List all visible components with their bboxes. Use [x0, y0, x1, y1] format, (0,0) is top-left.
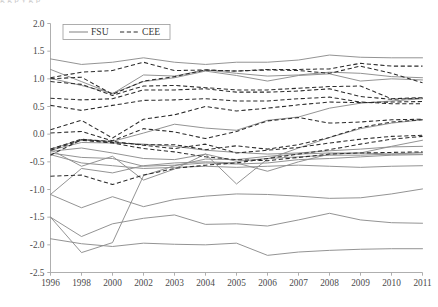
x-tick-label: 2009	[351, 278, 370, 288]
x-tick-label: 2010	[382, 278, 401, 288]
series-line-fsu-13	[51, 140, 423, 252]
x-tick-label: 2011	[413, 278, 432, 288]
x-axis: 1996199820002002200320042005200620072008…	[41, 273, 432, 289]
x-tick-label: 2005	[227, 278, 246, 288]
y-tick-label: -0.5	[30, 157, 45, 167]
x-tick-label: 2002	[134, 278, 153, 288]
series-line-cee-3	[51, 82, 423, 99]
series-line-cee-7	[51, 118, 423, 141]
series-line-fsu-11	[51, 213, 423, 236]
series-line-fsu-1	[51, 55, 423, 64]
x-tick-label: 2004	[196, 278, 215, 288]
series-line-cee-6	[51, 102, 423, 139]
legend-label-cee: CEE	[142, 26, 160, 37]
series-line-fsu-2	[51, 69, 423, 93]
y-tick-label: 0.0	[33, 129, 45, 139]
series-lines	[51, 55, 423, 255]
series-line-cee-8	[51, 120, 423, 150]
x-tick-label: 2007	[289, 278, 308, 288]
y-tick-label: 1.5	[33, 46, 45, 56]
y-tick-label: -1.0	[30, 185, 45, 195]
y-tick-label: -2.5	[30, 268, 45, 278]
y-tick-label: -2.0	[30, 240, 45, 250]
line-chart: 2.01.51.00.50.0-0.5-1.0-1.5-2.0-2.5 1996…	[0, 0, 438, 307]
x-tick-label: 1998	[72, 278, 91, 288]
series-line-cee-11	[51, 136, 423, 184]
x-tick-label: 2008	[320, 278, 339, 288]
y-tick-label: 2.0	[33, 19, 45, 29]
y-tick-label: 1.0	[33, 74, 45, 84]
x-tick-label: 1996	[41, 278, 60, 288]
x-tick-label: 2000	[103, 278, 122, 288]
y-tick-label: -1.5	[30, 212, 45, 222]
figure-container: g g p y g p 2.01.51.00.50.0-0.5-1.0-1.5-…	[0, 0, 438, 307]
y-tick-label: 0.5	[33, 102, 45, 112]
x-tick-label: 2006	[258, 278, 277, 288]
series-line-cee-4	[51, 89, 423, 100]
chart-legend: FSU CEE	[63, 25, 170, 40]
series-line-fsu-12	[51, 239, 423, 256]
legend-label-fsu: FSU	[91, 26, 109, 37]
series-line-fsu-10	[51, 189, 423, 208]
y-axis: 2.01.51.00.50.0-0.5-1.0-1.5-2.0-2.5	[30, 19, 51, 278]
x-tick-label: 2003	[165, 278, 184, 288]
